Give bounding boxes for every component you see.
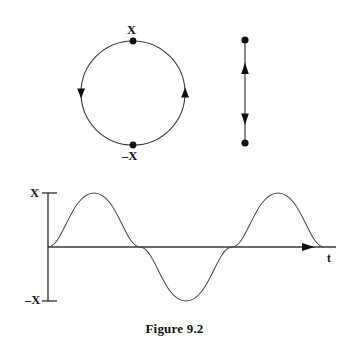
segment-arrow-up-icon [241,63,249,75]
segment-diagram-group [241,36,249,146]
y-axis-lower-label: –X [25,294,40,307]
circle-top-marker-dot [130,38,137,45]
segment-bottom-marker-dot [241,139,248,146]
x-axis-label: t [327,253,331,265]
segment-top-marker-dot [241,36,248,43]
y-axis-upper-label: X [30,187,39,200]
circle-diagram-group [77,38,189,149]
circle-left-arrow-down-icon [77,89,85,99]
segment-arrow-down-icon [241,114,249,126]
figure-caption: Figure 9.2 [0,321,349,337]
figure-graphics [0,0,349,350]
motion-circle [81,41,185,145]
circle-bottom-marker-dot [130,142,137,149]
sine-wave-plot-group [42,193,336,301]
circle-bottom-label: –X [122,150,137,163]
figure-9-2: X –X X –X t Figure 9.2 [0,0,349,350]
circle-right-arrow-up-icon [181,88,189,98]
circle-top-label: X [127,24,136,37]
x-axis-arrow-icon [302,243,315,251]
